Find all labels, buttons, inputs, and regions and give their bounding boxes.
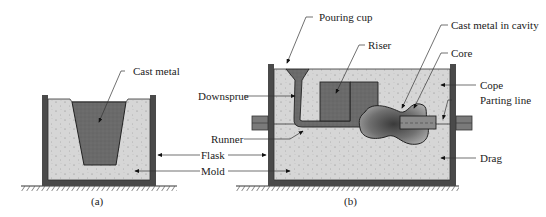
core [400, 116, 436, 129]
ground-b [236, 186, 459, 191]
label-flask: Flask [201, 149, 225, 161]
caption-b: (b) [344, 195, 357, 208]
label-core: Core [451, 47, 473, 59]
label-runner: Runner [211, 133, 244, 145]
label-parting-line: Parting line [480, 94, 531, 106]
ground-a [21, 186, 177, 191]
sand-casting-diagram: Cast metal (a) [0, 0, 546, 217]
riser [320, 82, 350, 121]
panel-a: Cast metal (a) [21, 65, 180, 208]
label-mold: Mold [201, 165, 225, 177]
label-cast-metal-in-cavity: Cast metal in cavity [451, 19, 539, 31]
label-downsprue: Downsprue [198, 90, 249, 102]
panel-b: Pouring cup Riser Downsprue Runner Cast … [135, 11, 539, 208]
label-riser: Riser [368, 39, 392, 51]
label-cast-metal: Cast metal [133, 65, 180, 77]
caption-a: (a) [91, 195, 104, 208]
label-cope: Cope [480, 79, 503, 91]
label-pouring-cup: Pouring cup [319, 11, 373, 23]
label-drag: Drag [480, 152, 502, 164]
